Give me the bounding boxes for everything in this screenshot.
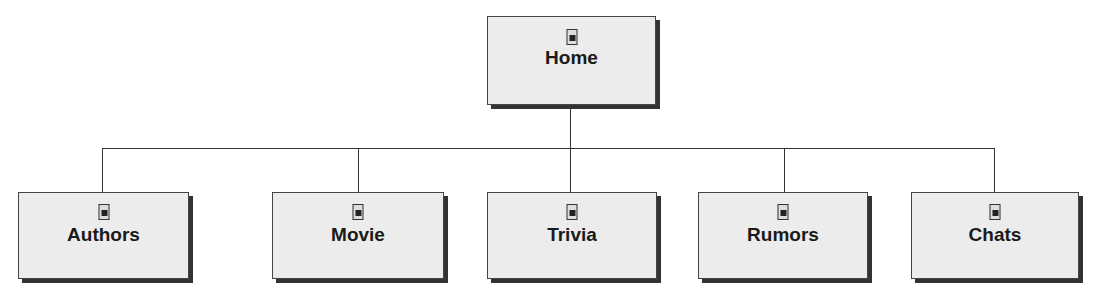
node-label: Home <box>488 47 655 69</box>
page-icon <box>567 204 578 220</box>
connector-horizontal-bus <box>102 148 994 149</box>
node-home[interactable]: Home <box>487 16 656 105</box>
node-label: Trivia <box>488 224 656 246</box>
node-movie[interactable]: Movie <box>272 192 444 279</box>
node-label: Rumors <box>699 224 867 246</box>
node-rumors[interactable]: Rumors <box>698 192 868 279</box>
connector-rumors <box>784 148 785 192</box>
connector-trivia <box>570 148 571 192</box>
node-chats[interactable]: Chats <box>911 192 1079 279</box>
node-authors[interactable]: Authors <box>18 192 189 279</box>
page-icon <box>353 204 364 220</box>
connector-authors <box>102 148 103 192</box>
connector-chats <box>994 148 995 192</box>
node-label: Authors <box>19 224 188 246</box>
page-icon <box>566 29 577 45</box>
page-icon <box>990 204 1001 220</box>
node-trivia[interactable]: Trivia <box>487 192 657 279</box>
connector-movie <box>358 148 359 192</box>
node-label: Movie <box>273 224 443 246</box>
page-icon <box>98 204 109 220</box>
page-icon <box>778 204 789 220</box>
connector-root-down <box>570 104 571 148</box>
node-label: Chats <box>912 224 1078 246</box>
